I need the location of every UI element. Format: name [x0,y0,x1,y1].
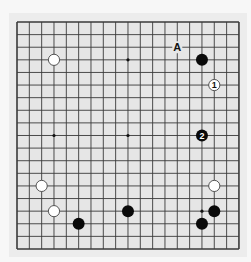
white-stone [48,54,59,65]
star-point-icon [126,134,129,137]
move-number: 2 [199,131,204,141]
black-stone [122,205,134,217]
white-stone [48,206,59,217]
black-stone [196,218,208,230]
black-stone-move-2: 2 [196,129,208,141]
black-stone [196,54,208,66]
white-stone [36,180,47,191]
star-point-icon [200,210,203,213]
move-number: 1 [212,80,217,90]
go-board: A12 [0,0,251,262]
point-label-marker: A [173,41,181,53]
star-point-icon [52,134,55,137]
star-point-icon [126,58,129,61]
white-stone [209,180,220,191]
black-stone [208,205,220,217]
go-board-diagram: A12 [0,0,251,262]
black-stone [73,218,85,230]
white-stone-move-1: 1 [209,79,220,90]
